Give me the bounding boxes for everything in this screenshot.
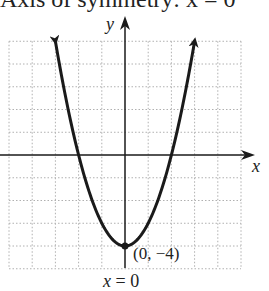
vertex-label: (0, −4) xyxy=(133,244,179,263)
x-axis-label: x xyxy=(251,156,260,176)
axis-of-symmetry-label: x = 0 xyxy=(102,271,139,291)
parabola-graph: (0, −4) x y x = 0 xyxy=(0,0,269,291)
y-axis-label: y xyxy=(104,14,114,34)
vertex-point xyxy=(122,243,129,250)
